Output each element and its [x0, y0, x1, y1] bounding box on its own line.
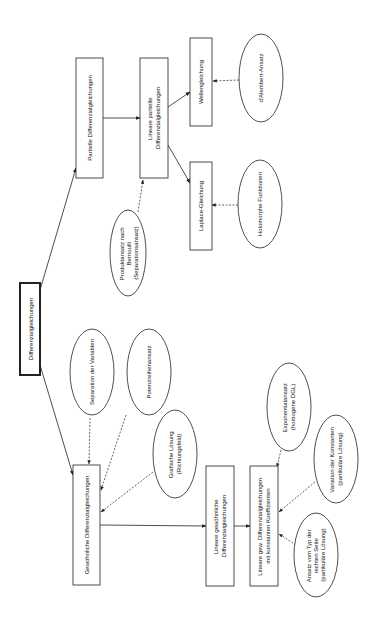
node-produktansatz-line2: Bernoulli — [126, 242, 132, 265]
edge-dalembert-welle — [213, 80, 239, 81]
node-grafische-loesung[interactable]: Grafische Lösung (Richtungsfeld) — [153, 410, 197, 498]
svg-text:Lineare partielle Diff: Lineare partielle Differenzialgleichunge… — [147, 87, 161, 149]
node-separation-label: Separation der Variablen — [89, 339, 95, 405]
node-root-label: Differenzialgleichungen — [28, 298, 34, 360]
node-laplace-gleichung-label: Laplace-Gleichung — [198, 181, 204, 231]
node-exponential-line2: (homogene DGL) — [290, 384, 296, 430]
node-produktansatz-line1: Produktansatz nach — [119, 227, 125, 280]
node-lineare-partielle-line2: Differenzialgleichungen — [155, 87, 161, 149]
node-ansatz-rechte-seite[interactable]: Ansatz vom Typ der rechten Seite (partik… — [294, 513, 338, 597]
edge-ansatzrs-linkonst — [279, 534, 296, 545]
node-grafisch-line1: Grafische Lösung — [168, 431, 174, 478]
node-variation-line1: Variation der Konstanten — [329, 427, 335, 493]
edge-root-gewoehnlich — [40, 365, 73, 475]
edge-root-partielle — [40, 168, 76, 290]
svg-text:Exponentialansatz (hom: Exponentialansatz (homogene DGL) — [282, 382, 296, 433]
node-produktansatz-line3: (Separationsansatz) — [133, 226, 139, 280]
node-gewoehnliche[interactable]: Gewöhnliche Differenzialgleichungen — [73, 465, 100, 585]
node-dalembert-label: d'Alembert-Ansatz — [258, 54, 264, 103]
edge-separation-gewoehnlich — [89, 418, 90, 464]
node-potenz-label: Potenzreihenansatz — [146, 345, 152, 398]
node-lineare-partielle-line1: Lineare partielle — [147, 97, 153, 140]
node-lineare-gewoehnliche-line1: Lineare gewöhnliche — [213, 499, 219, 555]
node-ansatz-rs-line1: Ansatz vom Typ der — [306, 529, 312, 582]
node-grafisch-line2: (Richtungsfeld) — [176, 434, 182, 474]
svg-text:Variation der Konstanten: Variation der Konstanten (partikuläre Lö… — [329, 425, 343, 492]
edge-potenz-gewoehnlich — [101, 415, 126, 490]
node-exponentialansatz[interactable]: Exponentialansatz (homogene DGL) — [267, 363, 311, 451]
node-root[interactable]: Differenzialgleichungen — [20, 283, 40, 375]
node-ansatz-rs-line3: (partikuläre Lösung) — [320, 528, 326, 581]
node-lin-konst-line2: mit konstanten Koeffizienten — [265, 488, 271, 563]
node-lineare-konstante-koeffizienten[interactable]: Lineare gew. Differenzialgleichungen mit… — [250, 466, 278, 586]
node-lineare-partielle[interactable]: Lineare partielle Differenzialgleichunge… — [140, 58, 168, 178]
node-gewoehnliche-label: Gewöhnliche Differenzialgleichungen — [84, 476, 90, 575]
node-lineare-gewoehnliche-line2: Differenzialgleichungen — [221, 495, 227, 557]
svg-text:Grafische Lösung (Rich: Grafische Lösung (Richtungsfeld) — [168, 430, 182, 479]
edge-linpartielle-welle — [168, 92, 190, 107]
node-lineare-gewoehnliche[interactable]: Lineare gewöhnliche Differenzialgleichun… — [206, 466, 234, 586]
edge-linpartielle-laplace — [168, 145, 190, 183]
node-holomorphe-label: Holomorphe Funktionen — [257, 172, 263, 236]
node-potenzreihenansatz[interactable]: Potenzreihenansatz — [127, 329, 171, 415]
node-separation-der-variablen[interactable]: Separation der Variablen — [70, 329, 114, 415]
node-exponential-line1: Exponentialansatz — [282, 383, 288, 432]
node-laplace-gleichung[interactable]: Laplace-Gleichung — [190, 162, 212, 250]
node-produktansatz[interactable]: Produktansatz nach Bernoulli (Separation… — [110, 210, 146, 296]
node-variation-der-konstanten[interactable]: Variation der Konstanten (partikuläre Lö… — [314, 415, 358, 503]
node-holomorphe-funktionen[interactable]: Holomorphe Funktionen — [238, 160, 282, 248]
node-lin-konst-line1: Lineare gew. Differenzialgleichungen — [257, 478, 263, 576]
node-partielle[interactable]: Partielle Differenzialgleichungen — [76, 58, 103, 178]
edge-grafisch-gewoehnlich — [101, 472, 153, 512]
svg-text:Lineare gew. Differenzialgleic: Lineare gew. Differenzialgleichungen mit… — [257, 476, 271, 576]
node-partielle-label: Partielle Differenzialgleichungen — [87, 75, 93, 161]
edge-variation-linkonst — [279, 482, 315, 512]
node-ansatz-rs-line2: rechten Seite — [313, 537, 319, 573]
svg-text:Lineare gewöhnliche Di: Lineare gewöhnliche Differenzialgleichun… — [213, 495, 227, 557]
diagram-canvas: Differenzialgleichungen Partielle Differ… — [0, 0, 380, 625]
node-wellengleichung[interactable]: Wellengleichung — [190, 38, 212, 126]
edge-gewoehnlich-lingew — [100, 525, 206, 526]
node-wellengleichung-label: Wellengleichung — [198, 60, 204, 104]
edge-produkt-linpartielle — [138, 180, 143, 212]
node-dalembert-ansatz[interactable]: d'Alembert-Ansatz — [239, 34, 283, 122]
node-variation-line2: (partikuläre Lösung) — [337, 432, 343, 485]
edge-exponential-linkonst — [277, 450, 281, 467]
